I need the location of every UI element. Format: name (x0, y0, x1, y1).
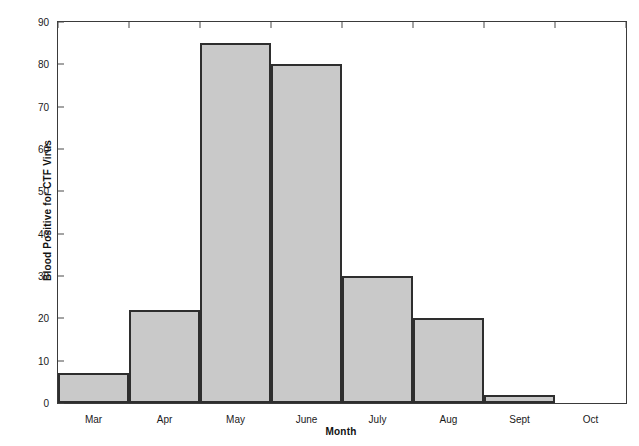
x-tick-mark (555, 22, 556, 28)
y-tick-mark (58, 106, 64, 107)
bar (342, 276, 413, 403)
y-tick-label: 30 (38, 271, 58, 282)
y-tick-label: 20 (38, 313, 58, 324)
x-tick-mark (129, 22, 130, 28)
y-tick-label: 40 (38, 228, 58, 239)
bar (413, 318, 484, 403)
x-tick-label: Oct (583, 403, 599, 425)
bar (129, 310, 200, 403)
x-tick-mark (484, 22, 485, 28)
y-tick-mark (58, 233, 64, 234)
y-tick-label: 80 (38, 59, 58, 70)
y-tick-mark (58, 276, 64, 277)
bar (58, 373, 129, 403)
x-tick-mark (58, 22, 59, 28)
x-tick-label: Sept (509, 403, 530, 425)
x-tick-mark (200, 22, 201, 28)
y-tick-mark (58, 149, 64, 150)
y-tick-mark (58, 318, 64, 319)
bar (484, 395, 555, 403)
x-tick-label: Apr (157, 403, 173, 425)
y-tick-label: 70 (38, 101, 58, 112)
y-tick-mark (58, 22, 64, 23)
y-tick-label: 60 (38, 144, 58, 155)
chart-figure: Blood Positive for CTF Virus 01020304050… (0, 0, 639, 446)
y-tick-label: 50 (38, 186, 58, 197)
x-tick-label: June (296, 403, 318, 425)
y-tick-label: 0 (43, 398, 58, 409)
x-tick-label: Mar (85, 403, 102, 425)
y-tick-mark (58, 360, 64, 361)
bar (200, 43, 271, 403)
x-tick-mark (413, 22, 414, 28)
x-tick-label: July (369, 403, 387, 425)
plot-area: 0102030405060708090 MarAprMayJuneJulyAug… (57, 21, 627, 404)
y-tick-label: 90 (38, 17, 58, 28)
x-tick-mark (626, 22, 627, 28)
x-tick-label: May (226, 403, 245, 425)
y-tick-mark (58, 64, 64, 65)
x-tick-mark (342, 22, 343, 28)
bar (271, 64, 342, 403)
y-axis-title: Blood Positive for CTF Virus (42, 81, 53, 341)
x-tick-mark (271, 22, 272, 28)
y-tick-label: 10 (38, 355, 58, 366)
x-tick-label: Aug (440, 403, 458, 425)
x-axis-title: Month (57, 426, 625, 437)
y-tick-mark (58, 191, 64, 192)
